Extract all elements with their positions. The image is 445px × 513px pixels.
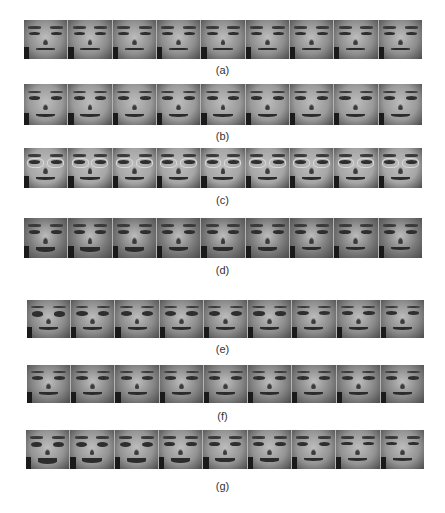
face-frame xyxy=(27,300,71,338)
face-frame xyxy=(160,365,204,403)
face-strip-a xyxy=(24,20,422,59)
face-frame xyxy=(290,218,334,258)
face-frame xyxy=(290,20,334,59)
face-frame xyxy=(379,20,422,59)
face-frame xyxy=(113,20,157,59)
face-frame xyxy=(381,300,424,338)
caption-e: (e) xyxy=(0,343,445,355)
face-frame xyxy=(24,148,68,188)
face-frame xyxy=(24,20,68,59)
face-frame xyxy=(246,218,290,258)
face-frame xyxy=(334,148,378,188)
face-frame xyxy=(248,430,292,469)
face-strip-d xyxy=(24,218,422,258)
face-frame xyxy=(290,84,334,125)
face-strip-g xyxy=(26,430,424,469)
face-strip-f xyxy=(27,365,424,403)
face-frame xyxy=(24,84,68,125)
face-frame xyxy=(68,218,112,258)
face-frame xyxy=(157,84,201,125)
caption-b: (b) xyxy=(0,130,445,142)
caption-c: (c) xyxy=(0,194,445,206)
face-frame xyxy=(157,218,201,258)
face-frame xyxy=(70,430,114,469)
caption-f: (f) xyxy=(0,410,445,422)
face-frame xyxy=(334,218,378,258)
face-frame xyxy=(113,84,157,125)
face-frame xyxy=(26,430,70,469)
face-frame xyxy=(248,365,292,403)
caption-g: (g) xyxy=(0,480,445,492)
face-frame xyxy=(68,84,112,125)
face-frame xyxy=(246,84,290,125)
face-frame xyxy=(201,218,245,258)
caption-d: (d) xyxy=(0,264,445,276)
face-frame xyxy=(246,148,290,188)
face-frame xyxy=(201,20,245,59)
face-frame xyxy=(160,300,204,338)
face-strip-c xyxy=(24,148,422,188)
face-frame xyxy=(381,365,424,403)
face-frame xyxy=(337,300,381,338)
face-frame xyxy=(71,365,115,403)
face-frame xyxy=(27,365,71,403)
face-frame xyxy=(336,430,380,469)
face-frame xyxy=(292,300,336,338)
face-strip-e xyxy=(27,300,424,338)
face-frame xyxy=(290,148,334,188)
face-frame xyxy=(71,300,115,338)
face-frame xyxy=(248,300,292,338)
face-frame xyxy=(157,20,201,59)
face-frame xyxy=(115,300,159,338)
face-frame xyxy=(203,430,247,469)
face-frame xyxy=(292,430,336,469)
face-frame xyxy=(113,148,157,188)
face-frame xyxy=(292,365,336,403)
face-frame xyxy=(113,218,157,258)
face-frame xyxy=(381,430,424,469)
face-frame xyxy=(68,20,112,59)
face-frame xyxy=(201,148,245,188)
face-frame xyxy=(204,365,248,403)
face-frame xyxy=(24,218,68,258)
face-frame xyxy=(201,84,245,125)
face-frame xyxy=(379,84,422,125)
face-frame xyxy=(379,148,422,188)
face-frame xyxy=(334,84,378,125)
face-frame xyxy=(334,20,378,59)
face-frame xyxy=(115,365,159,403)
face-frame xyxy=(159,430,203,469)
face-frame xyxy=(68,148,112,188)
caption-a: (a) xyxy=(0,64,445,76)
face-frame xyxy=(157,148,201,188)
face-frame xyxy=(246,20,290,59)
face-frame xyxy=(115,430,159,469)
face-frame xyxy=(204,300,248,338)
face-strip-b xyxy=(24,84,422,125)
face-frame xyxy=(379,218,422,258)
face-frame xyxy=(337,365,381,403)
